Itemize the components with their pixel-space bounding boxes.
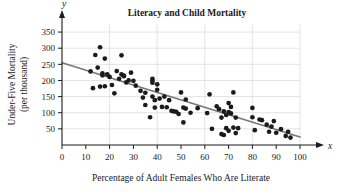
data-point: [221, 133, 226, 138]
data-point: [195, 106, 200, 111]
y-axis-label-line2: (per thousand): [19, 57, 30, 112]
data-point: [122, 74, 127, 79]
data-point: [91, 86, 96, 91]
data-point: [183, 97, 188, 102]
data-point: [205, 111, 210, 116]
y-tick-label: 50: [46, 124, 56, 134]
data-point: [179, 90, 184, 95]
data-point: [226, 128, 231, 133]
data-point: [102, 84, 107, 89]
x-axis-variable-label: x: [327, 141, 333, 151]
data-point: [181, 120, 186, 125]
y-tick-label: 300: [42, 43, 56, 53]
data-point: [207, 92, 212, 97]
data-point: [217, 107, 222, 112]
data-point: [112, 91, 117, 96]
data-point: [143, 103, 148, 108]
data-point: [150, 80, 155, 85]
data-point: [176, 112, 181, 117]
data-point: [100, 73, 105, 78]
x-tick-label: 20: [105, 152, 115, 162]
x-tick-label: 90: [272, 152, 282, 162]
data-point: [93, 53, 98, 58]
y-tick-label: 350: [42, 27, 56, 37]
data-point: [143, 90, 148, 95]
data-point: [210, 127, 215, 132]
data-point: [117, 77, 122, 82]
data-point: [260, 118, 265, 123]
data-point: [88, 69, 93, 74]
data-point: [155, 87, 160, 92]
data-point: [126, 78, 131, 83]
x-tick-label: 10: [81, 152, 91, 162]
data-point: [264, 122, 269, 127]
data-point: [167, 98, 172, 103]
data-point: [288, 135, 293, 140]
data-point: [114, 69, 119, 74]
data-point: [110, 83, 115, 88]
x-axis-arrow-icon: [316, 142, 324, 148]
chart-figure: 0102030405060708090100501001502002503003…: [0, 0, 346, 194]
data-point: [162, 94, 167, 99]
data-point: [233, 131, 238, 136]
data-point: [129, 70, 134, 75]
y-tick-label: 150: [42, 92, 56, 102]
data-point: [107, 75, 112, 80]
data-point: [98, 84, 103, 89]
data-point: [102, 56, 107, 61]
data-point: [152, 98, 157, 103]
x-tick-label: 70: [224, 152, 234, 162]
data-point: [279, 127, 284, 132]
y-axis-label-line1: Under-Five Mortality: [7, 43, 17, 125]
data-point: [283, 134, 288, 139]
data-point: [286, 129, 291, 134]
data-point: [250, 115, 255, 120]
x-tick-label: 0: [60, 152, 65, 162]
data-point: [250, 106, 255, 111]
data-point: [267, 129, 272, 134]
data-point: [229, 111, 234, 116]
scatter-plot: 0102030405060708090100501001502002503003…: [0, 0, 346, 194]
x-tick-label: 50: [177, 152, 187, 162]
data-point: [229, 105, 234, 110]
data-point: [188, 110, 193, 115]
data-point: [98, 45, 103, 50]
data-point: [269, 124, 274, 129]
data-point: [160, 105, 165, 110]
x-tick-label: 80: [248, 152, 258, 162]
data-point: [152, 105, 157, 110]
data-point: [271, 119, 276, 124]
data-point: [148, 115, 153, 120]
data-point: [95, 65, 100, 70]
chart-title: Literacy and Child Mortality: [128, 8, 247, 18]
y-axis-arrow-icon: [59, 10, 65, 18]
data-point: [236, 126, 241, 131]
data-point: [233, 115, 238, 120]
x-tick-label: 30: [129, 152, 139, 162]
data-point: [274, 130, 279, 135]
data-point: [119, 53, 124, 58]
data-point: [252, 128, 257, 133]
x-tick-label: 40: [153, 152, 163, 162]
data-point: [133, 83, 138, 88]
data-point: [164, 105, 169, 110]
data-point: [219, 115, 224, 120]
data-point: [131, 78, 136, 83]
x-axis-label: Percentage of Adult Females Who Are Lite…: [92, 173, 270, 183]
y-tick-label: 100: [42, 108, 56, 118]
data-point: [157, 96, 162, 101]
x-tick-label: 60: [200, 152, 210, 162]
data-point: [138, 88, 143, 93]
data-point: [141, 95, 146, 100]
data-point: [155, 82, 160, 87]
x-tick-label: 100: [293, 152, 307, 162]
y-tick-label: 250: [42, 60, 56, 70]
y-tick-label: 200: [42, 76, 56, 86]
y-axis-variable-label: y: [61, 0, 67, 9]
data-point: [231, 125, 236, 130]
trend-line: [62, 63, 300, 137]
data-point: [231, 90, 236, 95]
data-point: [183, 106, 188, 111]
